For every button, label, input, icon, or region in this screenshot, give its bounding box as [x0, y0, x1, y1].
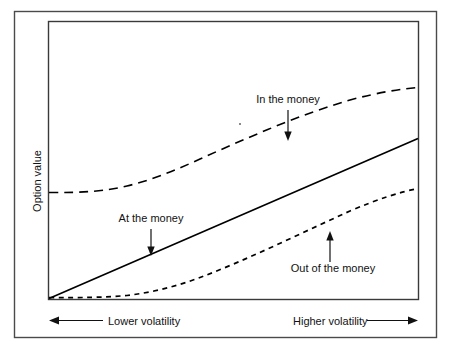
option-value-volatility-figure: Option value In the money At the money O… — [0, 0, 451, 354]
annotation-label-in-the-money: In the money — [256, 93, 320, 105]
figure-background — [0, 0, 451, 354]
annotation-label-at-the-money: At the money — [119, 212, 184, 224]
scan-speck — [239, 123, 241, 125]
y-axis-label: Option value — [31, 150, 43, 212]
annotation-label-out-of-the-money: Out of the money — [291, 262, 376, 274]
x-axis-label-lower: Lower volatility — [108, 315, 181, 327]
x-axis-label-higher: Higher volatility — [293, 315, 368, 327]
